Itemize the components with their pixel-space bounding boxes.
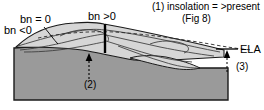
annotation-one-line1: (1) insolation = >present [152,2,260,13]
annotation-one-line2: (Fig 8) [182,14,211,25]
callout-two-label: (2) [84,80,96,91]
callout-three-label: (3) [236,62,248,73]
label-bn-positive: bn >0 [88,11,116,23]
label-bn-negative: bn <0 [4,25,32,37]
callout-three-arrowhead [224,50,230,58]
label-ela: ELA [240,44,261,56]
glacier-cross-section-figure: bn = 0 bn <0 bn >0 (1) insolation = >pre… [0,0,264,110]
